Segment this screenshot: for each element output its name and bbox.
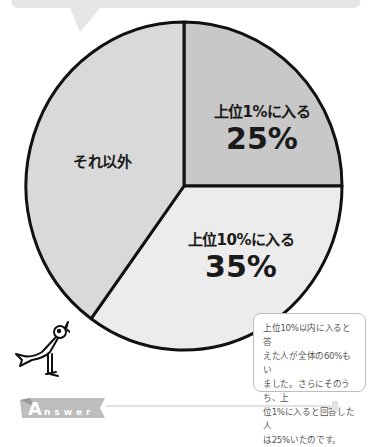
slice-name: それ以外 — [52, 150, 152, 171]
slice-value: 25% — [200, 121, 324, 156]
bird-icon — [10, 316, 70, 396]
slice-label-other: それ以外 — [52, 150, 152, 171]
answer-label: Answer — [28, 398, 95, 419]
note-line: 上位10%以内に入ると答 — [263, 321, 359, 349]
slice-name: 上位10%に入る — [170, 228, 312, 249]
note-line: は25%いたのです。 — [263, 433, 359, 447]
explanation-note: 上位10%以内に入ると答 えた人が全体の60%もい ました。さらにそのうち、上 … — [253, 313, 366, 392]
note-line: えた人が全体の60%もい — [263, 349, 359, 377]
slice-name: 上位1%に入る — [200, 100, 324, 121]
slice-label-top1: 上位1%に入る 25% — [200, 100, 324, 156]
slice-value: 35% — [170, 249, 312, 284]
slice-label-top10: 上位10%に入る 35% — [170, 228, 312, 284]
